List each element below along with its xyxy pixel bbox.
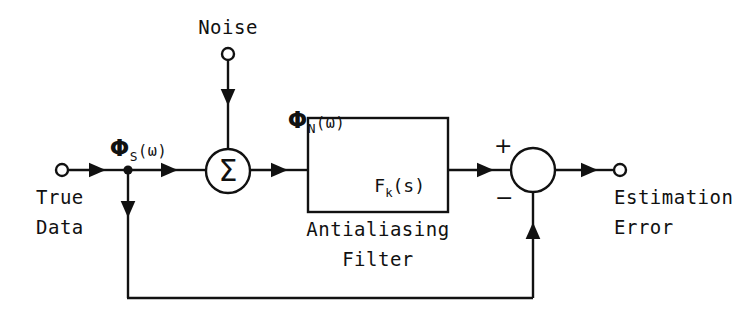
sigma-icon: Σ (219, 156, 238, 186)
output-name-line2: Error (614, 218, 674, 238)
noise-terminal-circle (222, 48, 234, 60)
input-name-line1: True (36, 188, 84, 208)
comparator-circle (511, 148, 555, 192)
input-psd-subscript: S (130, 149, 138, 164)
noise-label: Noise (198, 18, 258, 38)
noise-psd-phi-symbol: Φ (288, 107, 308, 133)
filter-caption-line2: Filter (342, 250, 414, 270)
input-name-line2: Data (36, 218, 84, 238)
output-terminal-circle (614, 164, 626, 176)
filter-symbol-subscript: k (385, 185, 392, 199)
noise-psd-label: ΦN(ω) (240, 88, 345, 155)
noise-psd-subscript: N (308, 121, 316, 136)
comparator-minus-sign: − (495, 186, 513, 209)
filter-transfer-function-label: Fk(s) (331, 158, 425, 218)
comparator-plus-sign: + (494, 134, 512, 157)
block-diagram: ΦS(ω) True Data Noise ΦN(ω) Σ Fk(s) Anti… (0, 0, 749, 319)
input-psd-label: ΦS(ω) (62, 116, 167, 183)
filter-symbol-argument: (s) (393, 175, 426, 196)
input-psd-argument: (ω) (138, 142, 167, 160)
filter-symbol-main: F (374, 175, 385, 196)
filter-caption-line1: Antialiasing (306, 220, 449, 240)
input-psd-phi-symbol: Φ (110, 135, 130, 161)
output-name-line1: Estimation (614, 188, 733, 208)
noise-psd-argument: (ω) (316, 114, 345, 132)
